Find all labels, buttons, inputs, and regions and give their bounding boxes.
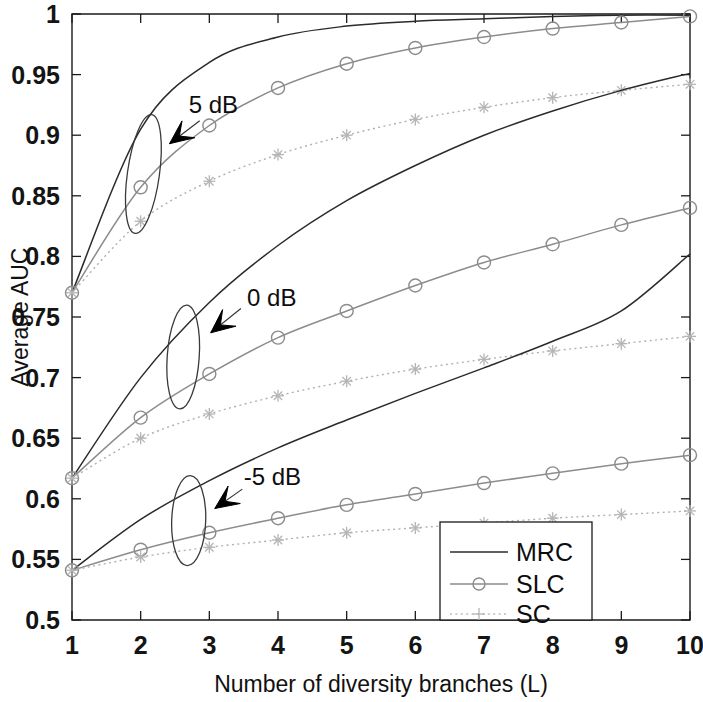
legend: MRC SLC SC	[440, 522, 592, 628]
x-tick-label: 8	[546, 631, 560, 659]
x-tick-label: 9	[614, 631, 628, 659]
legend-label-slc: SLC	[516, 570, 565, 598]
data-marker-plus	[272, 149, 284, 161]
x-tick-label: 10	[676, 631, 703, 659]
y-axis-title: Average AUC	[7, 248, 33, 387]
legend-label-sc: SC	[516, 600, 551, 628]
annotation-label-5dB: 5 dB	[189, 91, 238, 118]
chart-figure: 0.50.550.60.650.70.750.80.850.90.951 123…	[0, 0, 703, 702]
data-marker-plus	[684, 330, 696, 342]
legend-label-mrc: MRC	[516, 538, 573, 566]
data-marker-plus	[684, 505, 696, 517]
x-tick-label: 2	[134, 631, 148, 659]
data-marker-plus	[272, 390, 284, 402]
data-marker-plus	[203, 175, 215, 187]
x-tick-label: 1	[65, 631, 79, 659]
y-tick-label: 0.9	[25, 121, 60, 149]
data-marker-plus	[272, 534, 284, 546]
x-axis-title: Number of diversity branches (L)	[214, 671, 548, 697]
data-marker-plus	[684, 78, 696, 90]
data-marker-plus	[135, 551, 147, 563]
x-tick-label: 6	[408, 631, 422, 659]
chart-background	[0, 0, 703, 702]
y-tick-label: 0.95	[11, 61, 60, 89]
y-tick-label: 0.5	[25, 606, 60, 634]
x-tick-label: 3	[202, 631, 216, 659]
y-tick-label: 0.6	[25, 485, 60, 513]
y-tick-label: 0.85	[11, 182, 60, 210]
x-tick-label: 7	[477, 631, 491, 659]
average-auc-line-chart: 0.50.550.60.650.70.750.80.850.90.951 123…	[0, 0, 703, 702]
y-tick-label: 0.65	[11, 424, 60, 452]
annotation-label-0dB: 0 dB	[247, 284, 296, 311]
y-tick-label: 1	[46, 0, 60, 28]
x-tick-label: 4	[271, 631, 285, 659]
x-tick-label: 5	[340, 631, 354, 659]
annotation-label-neg5dB: -5 dB	[244, 463, 301, 490]
data-marker-plus	[478, 101, 490, 113]
data-marker-plus	[66, 564, 78, 576]
y-tick-label: 0.55	[11, 545, 60, 573]
